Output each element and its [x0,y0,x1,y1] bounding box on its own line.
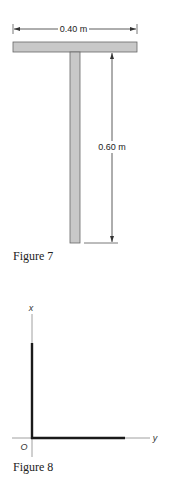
t-bar-diagram: 0.40 m 0.60 m [0,0,187,270]
height-label: 0.60 m [98,142,126,152]
figure-7-caption: Figure 7 [13,249,53,264]
origin-label: O [20,442,27,452]
arrowhead-up-icon [110,53,114,59]
width-dimension: 0.40 m [13,24,137,34]
horizontal-rod [13,42,137,52]
arrowhead-left-icon [14,27,20,31]
y-axis-label: y [152,433,158,443]
height-dimension: 0.60 m [84,53,128,243]
width-label: 0.40 m [60,24,88,34]
vertical-rod [70,52,80,243]
x-axis-label: x [28,303,34,313]
figure-8-caption: Figure 8 [13,460,53,475]
figure-7: 0.40 m 0.60 m Figure 7 [0,0,187,270]
arrowhead-right-icon [130,27,136,31]
arrowhead-down-icon [110,236,114,242]
figure-8: x y O Figure 8 [0,290,187,490]
